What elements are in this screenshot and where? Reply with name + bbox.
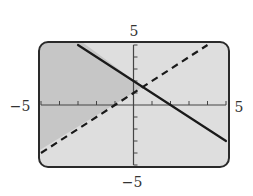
- x-min-label: −5: [10, 98, 31, 114]
- y-max-label: 5: [130, 23, 139, 39]
- x-max-label: 5: [235, 99, 244, 115]
- graphing-calculator-figure: 5 −5 5 −5: [0, 0, 253, 196]
- y-min-label: −5: [122, 174, 143, 190]
